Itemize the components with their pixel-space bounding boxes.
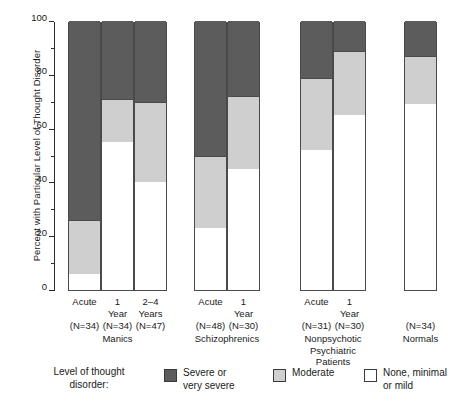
y-tick-major: [49, 129, 54, 130]
segment-moderate: [135, 102, 166, 183]
legend-swatch-severe: [164, 369, 177, 382]
legend-label-line-1: Severe or: [183, 366, 235, 379]
segment-severe-or-very-severe: [334, 21, 365, 51]
segment-none-minimal-or-mild: [301, 150, 332, 290]
x-category-label-line-1: 1: [316, 296, 384, 308]
segment-severe-or-very-severe: [405, 21, 436, 56]
x-group-label-line-1: Manics: [63, 333, 173, 345]
segment-moderate: [405, 56, 436, 104]
x-group-label: Schizophrenics: [172, 333, 282, 345]
chart-legend: Level of thought disorder: Severe orvery…: [30, 365, 450, 401]
legend-label-line-1: None, minimal: [383, 366, 447, 379]
segment-severe-or-very-severe: [102, 21, 133, 99]
x-category-label-line-1: 1: [210, 296, 278, 308]
stacked-bar: [404, 22, 437, 291]
legend-label-moderate: Moderate: [292, 366, 334, 379]
legend-label-none: None, minimalor mild: [383, 366, 447, 392]
legend-title: Level of thought disorder:: [30, 365, 148, 391]
legend-title-line-1: Level of thought: [30, 365, 148, 378]
x-category-label: 2–4Years: [117, 296, 185, 319]
y-tick-label: 20: [13, 228, 47, 238]
y-tick-label: 0: [13, 282, 47, 292]
y-tick-major: [49, 182, 54, 183]
y-tick-minor: [51, 263, 54, 264]
segment-severe-or-very-severe: [69, 21, 100, 220]
y-axis-label: Percent with Particular Level of Thought…: [31, 6, 42, 306]
y-tick-major: [49, 290, 54, 291]
segment-moderate: [102, 99, 133, 142]
y-tick-minor: [51, 209, 54, 210]
stacked-bar: [68, 22, 101, 291]
y-tick-label: 100: [13, 13, 47, 23]
y-tick-major: [49, 75, 54, 76]
x-category-sample-size: (N=30): [210, 320, 278, 331]
segment-moderate: [228, 96, 259, 169]
legend-swatch-moderate: [273, 369, 286, 382]
x-category-label-line-2: Year: [210, 308, 278, 320]
x-group-label-line-1: Normals: [366, 333, 460, 345]
x-category-label-line-2: Year: [316, 308, 384, 320]
segment-none-minimal-or-mild: [195, 228, 226, 290]
segment-none-minimal-or-mild: [405, 104, 436, 290]
segment-moderate: [301, 78, 332, 151]
segment-none-minimal-or-mild: [228, 169, 259, 290]
x-category-label-line-1: 2–4: [117, 296, 185, 308]
stacked-bar: [194, 22, 227, 291]
segment-none-minimal-or-mild: [69, 274, 100, 290]
stacked-bar: [300, 22, 333, 291]
x-category-label: 1Year: [316, 296, 384, 319]
y-tick-label: 40: [13, 174, 47, 184]
y-tick-minor: [51, 102, 54, 103]
segment-moderate: [334, 51, 365, 116]
y-tick-minor: [51, 156, 54, 157]
y-tick-label: 80: [13, 66, 47, 76]
y-tick-label: 60: [13, 120, 47, 130]
stacked-bar: [101, 22, 134, 291]
segment-severe-or-very-severe: [135, 21, 166, 102]
y-tick-minor: [51, 48, 54, 49]
x-category-sample-size: (N=30): [316, 320, 384, 331]
stacked-bar: [227, 22, 260, 291]
segment-severe-or-very-severe: [195, 21, 226, 156]
legend-label-line-2: very severe: [183, 379, 235, 392]
x-group-label: Normals: [366, 333, 460, 345]
plot-area: 020406080100: [54, 22, 454, 291]
segment-none-minimal-or-mild: [135, 182, 166, 290]
legend-label-line-1: Moderate: [292, 366, 334, 379]
y-tick-major: [49, 236, 54, 237]
legend-label-line-2: or mild: [383, 379, 447, 392]
x-group-label-line-2: Psychiatric: [278, 345, 388, 357]
legend-swatch-none: [364, 369, 377, 382]
stacked-bar: [134, 22, 167, 291]
x-category-sample-size: (N=47): [117, 320, 185, 331]
segment-moderate: [195, 156, 226, 229]
thought-disorder-stacked-bar-chart: Percent with Particular Level of Thought…: [0, 0, 460, 407]
y-axis-line: [54, 22, 55, 291]
segment-severe-or-very-severe: [228, 21, 259, 96]
segment-none-minimal-or-mild: [334, 115, 365, 290]
segment-moderate: [69, 220, 100, 274]
segment-none-minimal-or-mild: [102, 142, 133, 290]
x-group-label-line-1: Schizophrenics: [172, 333, 282, 345]
stacked-bar: [333, 22, 366, 291]
legend-label-severe: Severe orvery severe: [183, 366, 235, 392]
y-tick-major: [49, 21, 54, 22]
x-group-label: Manics: [63, 333, 173, 345]
x-category-label-line-2: Years: [117, 308, 185, 320]
legend-title-line-2: disorder:: [30, 378, 148, 391]
x-category-sample-size: (N=34): [387, 320, 455, 331]
x-category-label: 1Year: [210, 296, 278, 319]
segment-severe-or-very-severe: [301, 21, 332, 77]
